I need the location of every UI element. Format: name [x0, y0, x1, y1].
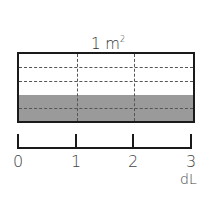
- tick-label-3: 3: [181, 153, 201, 171]
- area-exponent: 2: [120, 35, 125, 44]
- number-line-axis: [17, 147, 192, 149]
- grid-line-horizontal: [19, 108, 193, 109]
- grid-line-horizontal: [19, 81, 193, 82]
- tick-label-2: 2: [123, 153, 143, 171]
- area-value: 1: [91, 35, 101, 53]
- grid-line-horizontal: [19, 67, 193, 68]
- tick-1: [75, 134, 77, 148]
- tick-2: [132, 134, 134, 148]
- tick-label-0: 0: [8, 153, 28, 171]
- area-label: 1 m2: [88, 30, 128, 54]
- grid-line-vertical: [77, 54, 78, 121]
- unit-label: dL: [180, 171, 197, 187]
- tick-3: [190, 134, 192, 148]
- tick-label-1: 1: [66, 153, 86, 171]
- tick-0: [17, 134, 19, 148]
- area-rectangle: [17, 52, 195, 123]
- area-unit: m: [105, 35, 120, 53]
- grid-line-vertical: [134, 54, 135, 121]
